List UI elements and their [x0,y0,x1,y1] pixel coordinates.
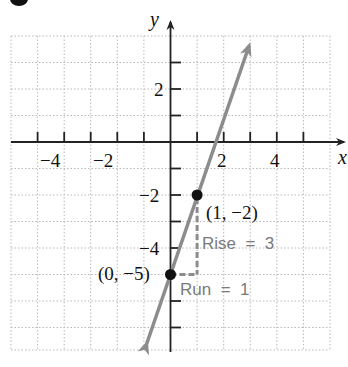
y-tick-label-neg4: −4 [139,238,160,259]
run-annotation: Run = 1 [180,280,249,299]
x-axis-label: x [337,146,347,168]
point-1-neg2 [192,190,203,201]
x-tick-label-2: 2 [217,150,227,171]
coordinate-plane: y x −4 −2 2 4 2 −2 −4 (0, −5) (1, −2) Ri… [0,0,348,367]
point-label-1-neg2: (1, −2) [206,202,258,224]
axes [11,22,344,352]
point-0-neg5 [165,269,176,280]
x-tick-label-neg4: −4 [40,150,61,171]
y-tick-label-neg2: −2 [139,185,159,206]
point-label-0-neg5: (0, −5) [98,263,150,285]
rise-annotation: Rise = 3 [202,234,274,253]
y-tick-label-2: 2 [154,79,164,100]
x-tick-label-neg2: −2 [93,150,113,171]
y-axis-label: y [148,8,159,31]
x-tick-label-4: 4 [270,150,280,171]
